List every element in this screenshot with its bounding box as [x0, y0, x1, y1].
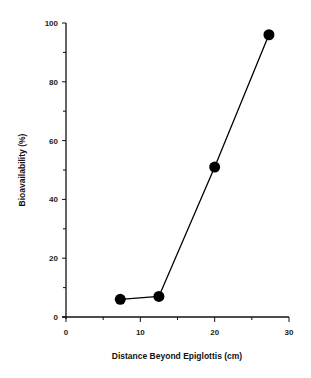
data-series — [115, 29, 275, 305]
y-tick-label: 0 — [54, 313, 59, 322]
chart: 0204060801000102030 Distance Beyond Epig… — [0, 0, 311, 378]
y-tick-label: 20 — [49, 254, 58, 263]
series-line — [120, 35, 269, 300]
y-tick-label: 60 — [49, 137, 58, 146]
x-tick-label: 0 — [64, 328, 69, 337]
y-tick-label: 100 — [45, 19, 59, 28]
y-axis-title: Bioavailability (%) — [17, 133, 27, 206]
x-tick-label: 10 — [136, 328, 145, 337]
x-tick-label: 20 — [210, 328, 219, 337]
data-point-marker — [153, 291, 164, 302]
y-tick-label: 40 — [49, 195, 58, 204]
x-axis-title: Distance Beyond Epiglottis (cm) — [112, 351, 243, 361]
x-tick-label: 30 — [285, 328, 294, 337]
data-point-marker — [263, 29, 274, 40]
data-point-marker — [115, 294, 126, 305]
data-point-marker — [209, 162, 220, 173]
y-tick-label: 80 — [49, 78, 58, 87]
ticks: 0204060801000102030 — [45, 19, 294, 337]
